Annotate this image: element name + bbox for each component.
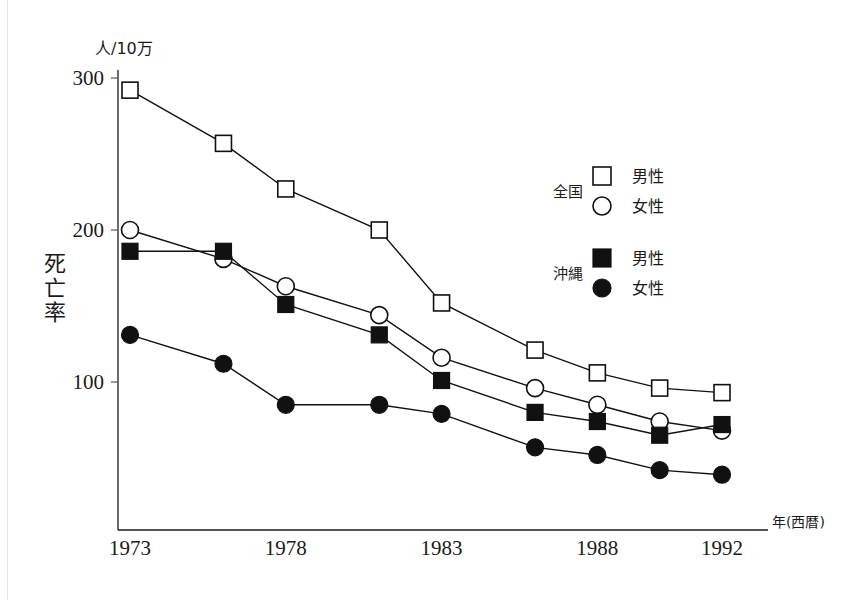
y-axis-ticks: 100200300 bbox=[73, 66, 119, 394]
data-point-okinawa_male-1990 bbox=[652, 427, 668, 443]
data-point-national_female-1978 bbox=[277, 278, 294, 295]
legend-group-label-1: 沖縄 bbox=[553, 265, 583, 283]
data-point-okinawa_female-1973 bbox=[122, 326, 139, 343]
data-point-national_male-1992 bbox=[714, 385, 730, 401]
data-point-okinawa_male-1978 bbox=[278, 296, 294, 312]
data-point-okinawa_female-1981 bbox=[371, 396, 388, 413]
x-tick-label-1992: 1992 bbox=[701, 536, 743, 560]
data-point-okinawa_male-1992 bbox=[714, 417, 730, 433]
data-point-okinawa_female-1992 bbox=[714, 466, 731, 483]
legend-marker-open-circle bbox=[593, 197, 611, 215]
legend-group-1: 男性女性沖縄 bbox=[553, 249, 664, 298]
data-point-okinawa_female-1986 bbox=[527, 439, 544, 456]
data-point-okinawa_male-1976 bbox=[215, 243, 231, 259]
legend-marker-filled-square bbox=[593, 249, 611, 267]
legend-group-label-0: 全国 bbox=[553, 183, 583, 201]
data-point-okinawa_male-1983 bbox=[434, 372, 450, 388]
data-point-okinawa_female-1983 bbox=[433, 405, 450, 422]
data-point-national_female-1986 bbox=[527, 380, 544, 397]
legend-group-0: 男性女性全国 bbox=[553, 167, 664, 216]
data-point-okinawa_male-1981 bbox=[371, 327, 387, 343]
legend-label-okinawa_male: 男性 bbox=[632, 249, 664, 268]
data-point-national_male-1981 bbox=[371, 222, 387, 238]
legend-label-national_male: 男性 bbox=[632, 167, 664, 186]
series-line-okinawa_female bbox=[130, 335, 722, 475]
y-axis-unit-label: 人/10万 bbox=[95, 39, 153, 58]
series-okinawa_female bbox=[122, 326, 731, 483]
y-tick-label-200: 200 bbox=[73, 218, 105, 242]
data-point-national_male-1978 bbox=[278, 181, 294, 197]
data-point-national_male-1986 bbox=[527, 342, 543, 358]
legend-marker-filled-circle bbox=[593, 279, 611, 297]
data-point-national_female-1983 bbox=[433, 349, 450, 366]
x-axis-title: 年(西暦) bbox=[772, 514, 825, 530]
x-tick-label-1978: 1978 bbox=[265, 536, 307, 560]
data-point-okinawa_male-1988 bbox=[589, 414, 605, 430]
data-point-okinawa_female-1988 bbox=[589, 446, 606, 463]
legend-label-okinawa_female: 女性 bbox=[632, 279, 664, 298]
series-national_male bbox=[122, 82, 730, 400]
data-point-national_male-1976 bbox=[215, 135, 231, 151]
chart-page: 死 亡 率 人/10万 年(西暦) 100200300 197319781983… bbox=[0, 0, 846, 600]
data-point-okinawa_female-1978 bbox=[277, 396, 294, 413]
y-tick-label-300: 300 bbox=[73, 66, 105, 90]
data-point-okinawa_male-1986 bbox=[527, 404, 543, 420]
x-tick-label-1988: 1988 bbox=[576, 536, 618, 560]
data-point-national_female-1988 bbox=[589, 396, 606, 413]
data-point-national_male-1990 bbox=[652, 380, 668, 396]
data-point-national_male-1973 bbox=[122, 82, 138, 98]
x-axis-ticks: 19731978198319881992 bbox=[109, 536, 743, 560]
x-tick-label-1983: 1983 bbox=[421, 536, 463, 560]
data-point-okinawa_female-1990 bbox=[651, 462, 668, 479]
legend-label-national_female: 女性 bbox=[632, 197, 664, 216]
data-point-okinawa_male-1973 bbox=[122, 243, 138, 259]
data-point-national_male-1983 bbox=[434, 295, 450, 311]
mortality-rate-line-chart: 人/10万 年(西暦) 100200300 197319781983198819… bbox=[0, 0, 846, 600]
series-okinawa_male bbox=[122, 243, 730, 443]
legend-marker-open-square bbox=[593, 167, 611, 185]
chart-legend: 男性女性全国男性女性沖縄 bbox=[553, 167, 664, 298]
x-tick-label-1973: 1973 bbox=[109, 536, 151, 560]
data-point-national_female-1981 bbox=[371, 307, 388, 324]
data-point-national_female-1973 bbox=[122, 222, 139, 239]
data-point-okinawa_female-1976 bbox=[215, 355, 232, 372]
y-tick-label-100: 100 bbox=[73, 370, 105, 394]
data-point-national_male-1988 bbox=[589, 365, 605, 381]
